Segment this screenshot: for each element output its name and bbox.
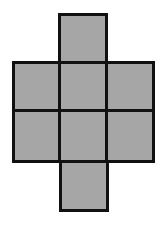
square-row2-right bbox=[105, 109, 155, 163]
square-row1-right bbox=[105, 61, 155, 112]
square-row1-left bbox=[12, 61, 61, 112]
square-row1-center bbox=[58, 61, 108, 112]
square-row2-center bbox=[58, 109, 108, 163]
square-row2-left bbox=[12, 109, 61, 163]
square-top bbox=[58, 13, 108, 64]
square-bottom bbox=[59, 160, 109, 212]
